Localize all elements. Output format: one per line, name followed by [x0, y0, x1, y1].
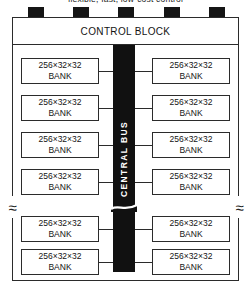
bank-name-label: BANK: [179, 108, 202, 119]
bank-size-label: 256×32×32: [169, 97, 212, 108]
bank-left-5: 256×32×32 BANK: [21, 216, 99, 242]
memory-architecture-diagram: flexible, fast, low-cost control CONTROL…: [0, 0, 251, 289]
figure-caption-clipped: flexible, fast, low-cost control: [0, 0, 251, 4]
bank-size-label: 256×32×32: [169, 134, 212, 145]
bank-right-6: 256×32×32 BANK: [152, 249, 230, 275]
bank-name-label: BANK: [48, 108, 71, 119]
bank-name-label: BANK: [179, 262, 202, 273]
bank-size-label: 256×32×32: [169, 218, 212, 229]
bank-name-label: BANK: [179, 145, 202, 156]
bank-name-label: BANK: [48, 71, 71, 82]
bank-left-1: 256×32×32 BANK: [21, 58, 99, 84]
bank-name-label: BANK: [48, 229, 71, 240]
bank-right-5: 256×32×32 BANK: [152, 216, 230, 242]
bank-name-label: BANK: [179, 229, 202, 240]
control-block-label: CONTROL BLOCK: [81, 26, 171, 37]
bank-size-label: 256×32×32: [38, 171, 81, 182]
bank-left-4: 256×32×32 BANK: [21, 169, 99, 195]
control-block: CONTROL BLOCK: [12, 17, 239, 45]
bank-link-right-1: [134, 71, 153, 72]
bank-right-4: 256×32×32 BANK: [152, 169, 230, 195]
bank-right-2: 256×32×32 BANK: [152, 95, 230, 121]
bank-size-label: 256×32×32: [38, 134, 81, 145]
bank-link-right-4: [134, 182, 153, 183]
bank-name-label: BANK: [179, 71, 202, 82]
bank-right-1: 256×32×32 BANK: [152, 58, 230, 84]
central-bus-label: CENTRAL BUS: [119, 120, 129, 196]
bank-link-right-3: [134, 145, 153, 146]
bank-size-label: 256×32×32: [169, 171, 212, 182]
bank-size-label: 256×32×32: [38, 97, 81, 108]
bank-size-label: 256×32×32: [38, 218, 81, 229]
bank-name-label: BANK: [179, 182, 202, 193]
central-bus: CENTRAL BUS: [113, 45, 135, 272]
bank-size-label: 256×32×32: [38, 60, 81, 71]
bank-right-3: 256×32×32 BANK: [152, 132, 230, 158]
bank-size-label: 256×32×32: [169, 60, 212, 71]
bank-left-6: 256×32×32 BANK: [21, 249, 99, 275]
bank-link-right-6: [134, 262, 153, 263]
bank-link-right-5: [134, 229, 153, 230]
bank-name-label: BANK: [48, 182, 71, 193]
right-frame-break-icon: ≈: [231, 196, 248, 218]
central-bus-break-icon: [111, 203, 137, 212]
bank-name-label: BANK: [48, 145, 71, 156]
bank-name-label: BANK: [48, 262, 71, 273]
bank-left-2: 256×32×32 BANK: [21, 95, 99, 121]
bank-left-3: 256×32×32 BANK: [21, 132, 99, 158]
left-frame-break-icon: ≈: [4, 196, 21, 218]
bank-size-label: 256×32×32: [169, 251, 212, 262]
bank-size-label: 256×32×32: [38, 251, 81, 262]
bank-link-right-2: [134, 108, 153, 109]
